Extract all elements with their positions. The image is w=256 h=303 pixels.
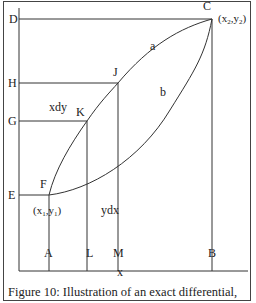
label-F: F: [40, 178, 47, 190]
figure-caption: Figure 10: Illustration of an exact diff…: [8, 285, 237, 300]
label-M: M: [113, 247, 124, 259]
label-xdy: xdy: [49, 101, 67, 113]
label-H: H: [8, 77, 17, 89]
x-axis-label: x: [117, 266, 123, 278]
label-end-coords: (x2,y2): [218, 12, 246, 28]
label-J: J: [113, 66, 118, 78]
diagram-canvas: [0, 0, 256, 303]
label-K: K: [76, 106, 85, 118]
label-curve-a: a: [150, 40, 155, 52]
curve-a: [49, 19, 212, 195]
label-ydx: ydx: [101, 204, 119, 216]
curve-b: [49, 19, 212, 195]
label-curve-b: b: [160, 86, 166, 98]
label-start-coords: (x1,y1): [33, 204, 61, 220]
label-A: A: [44, 247, 53, 259]
label-D: D: [9, 13, 18, 25]
label-L: L: [86, 247, 93, 259]
label-C: C: [203, 0, 211, 12]
label-E: E: [8, 189, 15, 201]
label-B: B: [208, 247, 216, 259]
label-G: G: [8, 115, 17, 127]
